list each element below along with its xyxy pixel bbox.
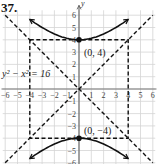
x-tick-label: 1	[89, 91, 93, 100]
y-tick-label: −5	[67, 147, 76, 156]
vertex-point	[76, 135, 82, 141]
x-tick-label: 3	[114, 91, 118, 100]
x-tick-label: −3	[38, 91, 47, 100]
x-tick-label: −6	[1, 91, 10, 100]
x-tick-label: 6	[151, 91, 155, 100]
vertex-point	[76, 37, 82, 43]
y-axis-label: y	[80, 0, 85, 8]
x-tick-label: 2	[102, 91, 106, 100]
y-tick-label: −3	[67, 122, 76, 131]
y-tick-label: −1	[67, 97, 76, 106]
equation-label: y² − x² = 16	[1, 68, 50, 79]
vertex-label-bottom: (0, −4)	[84, 125, 111, 137]
x-tick-label: 5	[139, 91, 143, 100]
x-tick-label: −2	[50, 91, 59, 100]
y-tick-label: −2	[67, 110, 76, 119]
y-tick-label: 6	[72, 11, 76, 20]
hyperbola-graph: −6−5−4−3−2−1123456−6−5−4−3−2−1123456 (0,…	[0, 0, 157, 164]
y-tick-label: 3	[72, 48, 76, 57]
y-tick-label: −6	[67, 159, 76, 164]
y-tick-label: 1	[72, 73, 76, 82]
y-tick-label: 5	[72, 24, 76, 33]
x-tick-label: −5	[13, 91, 22, 100]
y-tick-label: 2	[72, 60, 76, 69]
vertex-label-top: (0, 4)	[84, 47, 106, 59]
